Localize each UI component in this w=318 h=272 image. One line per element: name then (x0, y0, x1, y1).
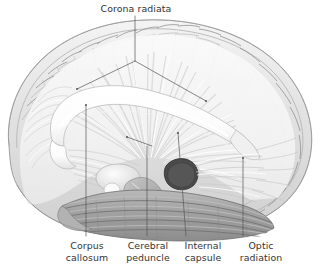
label-corpus-callosum: Corpus callosum (60, 240, 114, 263)
brain-body (8, 20, 311, 242)
brain-fiber-tract-illustration (0, 0, 318, 272)
label-internal-capsule: Internal capsule (178, 240, 228, 263)
label-optic-radiation: Optic radiation (232, 240, 290, 263)
label-corona-radiata: Corona radiata (98, 3, 174, 15)
brain-illustration-svg (0, 0, 318, 272)
label-cerebral-peduncle: Cerebral peduncle (120, 240, 176, 263)
